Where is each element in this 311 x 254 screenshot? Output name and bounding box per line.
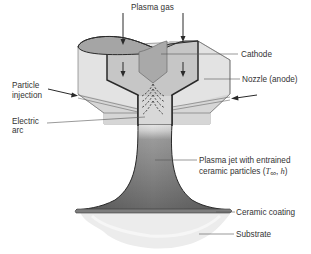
symbol-close-paren: ) [285, 167, 288, 176]
label-electric-arc-1: Electric [12, 117, 39, 126]
plasma-spray-diagram: Plasma gas Cathode Nozzle (anode) Partic… [0, 0, 311, 254]
label-substrate: Substrate [236, 230, 271, 239]
label-plasma-jet-1: Plasma jet with entrained [199, 156, 291, 165]
particle-injection-arrow-right [231, 95, 257, 101]
label-particle-injection-1: Particle [12, 81, 40, 90]
plasma-gas-arrow-left [121, 13, 126, 45]
label-ceramic-coating: Ceramic coating [236, 208, 296, 217]
label-electric-arc-2: arc [12, 126, 23, 135]
ceramic-coating [75, 209, 232, 213]
label-nozzle-anode: Nozzle (anode) [242, 75, 298, 84]
label-cathode: Cathode [241, 50, 272, 59]
label-plasma-jet-2-prefix: ceramic particles ( [199, 167, 266, 176]
label-plasma-jet-2: ceramic particles (T∞, h) [199, 166, 288, 178]
substrate [80, 212, 230, 249]
plasma-gas-arrow-right [181, 13, 186, 42]
particle-injection-arrow-left [48, 89, 78, 98]
label-plasma-gas: Plasma gas [131, 3, 174, 12]
label-particle-injection-2: injection [12, 91, 42, 100]
